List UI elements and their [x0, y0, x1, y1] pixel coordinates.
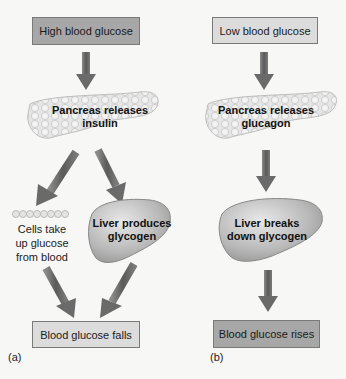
blood-glucose-rises-box: Blood glucose rises: [213, 320, 320, 348]
arrow-to-liver-icon: [98, 150, 126, 204]
liver-breaks-line1: Liver breaks: [222, 217, 312, 230]
cells-line1: Cells take: [4, 222, 80, 236]
pancreas-glucagon-label: Pancreas releases glucagon: [206, 104, 326, 130]
liver-produces-line2: glycogen: [92, 230, 172, 243]
arrow-down-icon: [76, 52, 96, 90]
liver-produces-glycogen-label: Liver produces glycogen: [92, 217, 172, 243]
panel-a-letter: (a): [8, 351, 21, 363]
panel-b-letter: (b): [210, 351, 223, 363]
cells-line2: up glucose: [4, 236, 80, 250]
blood-glucose-falls-box: Blood glucose falls: [32, 321, 140, 348]
pancreas-glucagon-line2: glucagon: [206, 117, 326, 130]
cells-line3: from blood: [4, 250, 80, 264]
pancreas-insulin-line2: insulin: [40, 117, 160, 130]
high-blood-glucose-box: High blood glucose: [32, 17, 140, 45]
liver-produces-line1: Liver produces: [92, 217, 172, 230]
cells-illustration: [13, 211, 69, 218]
arrow-down-icon: [258, 270, 278, 312]
arrow-down-icon: [256, 150, 276, 192]
cells-take-up-glucose-label: Cells take up glucose from blood: [4, 222, 80, 264]
liver-breaks-line2: down glycogen: [222, 230, 312, 243]
arrow-down-icon: [254, 52, 274, 90]
pancreas-glucagon-line1: Pancreas releases: [206, 104, 326, 117]
pancreas-insulin-label: Pancreas releases insulin: [40, 104, 160, 130]
arrow-liver-to-falls-icon: [100, 264, 134, 318]
liver-breaks-down-glycogen-label: Liver breaks down glycogen: [222, 217, 312, 243]
low-blood-glucose-box: Low blood glucose: [212, 17, 318, 44]
pancreas-insulin-line1: Pancreas releases: [40, 104, 160, 117]
arrow-cells-to-falls-icon: [46, 268, 76, 318]
arrow-to-cells-icon: [36, 152, 76, 206]
